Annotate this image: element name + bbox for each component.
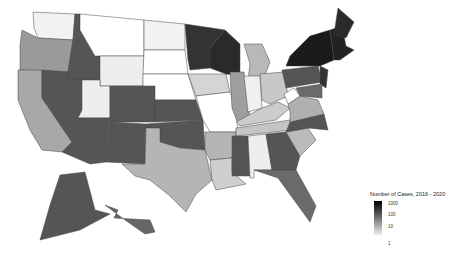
state-wy: [100, 56, 144, 86]
state-me: [334, 8, 354, 38]
state-hi: [105, 205, 155, 234]
state-ks: [155, 100, 203, 122]
legend-tick-100: 100: [388, 212, 396, 217]
legend-tick-1: 1: [388, 241, 391, 246]
state-fl: [254, 170, 316, 222]
state-ny: [286, 30, 334, 66]
state-ar: [205, 132, 236, 160]
legend-color-bar: [374, 201, 382, 235]
state-ak: [40, 172, 110, 240]
state-wa: [33, 12, 75, 40]
legend: Number of Cases, 2016 - 2020 1000 100 10…: [370, 191, 460, 251]
state-sd: [143, 50, 188, 74]
legend-title: Number of Cases, 2016 - 2020: [370, 191, 445, 197]
state-ms: [232, 136, 250, 176]
state-co: [110, 86, 155, 122]
legend-tick-1000: 1000: [388, 201, 398, 206]
state-nm: [106, 122, 146, 164]
legend-tick-10: 10: [388, 224, 393, 229]
state-md: [296, 84, 322, 98]
state-nd: [144, 20, 185, 50]
